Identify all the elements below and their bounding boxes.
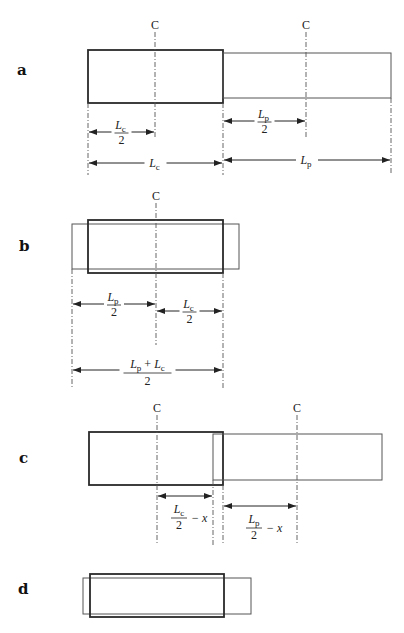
core-rect (89, 432, 223, 485)
center-marker-label: C (152, 189, 160, 203)
panel-label-b: b (19, 237, 30, 255)
panel-d: d (18, 574, 251, 617)
panels-root: aCCLc2Lp2LcLpbCLp2Lc2Lp + Lc2cCCLc2− xLp… (17, 18, 391, 617)
dimension-denominator: 2 (145, 374, 151, 388)
dimension-denominator: 2 (187, 312, 193, 326)
dimension-suffix: − x (266, 521, 283, 535)
plunger-rect (213, 434, 382, 480)
dimension-numerator: Lp (106, 290, 119, 306)
panel-a: aCCLc2Lp2LcLp (17, 18, 391, 175)
dimension-a-0: Lc2 (89, 118, 154, 147)
plunger-rect (72, 224, 239, 269)
core-rect (90, 574, 224, 617)
dimension-numerator: Lp (257, 107, 270, 123)
dimension-denominator: 2 (111, 305, 117, 319)
dimension-a-1: Lp2 (224, 107, 305, 136)
dimension-b-2: Lp + Lc2 (73, 357, 222, 388)
dimension-c-0: Lc2− x (158, 496, 212, 532)
dimension-label: Lp (299, 153, 312, 169)
dimension-b-0: Lp2 (73, 290, 155, 319)
panel-label-c: c (19, 449, 28, 467)
plunger-rect (83, 578, 251, 614)
dimension-denominator: 2 (176, 518, 182, 532)
dimension-a-2: Lc (89, 156, 222, 172)
magnetic-core-plunger-diagram: aCCLc2Lp2LcLpbCLp2Lc2Lp + Lc2cCCLc2− xLp… (0, 0, 404, 633)
center-marker-label: C (293, 401, 301, 415)
dimension-denominator: 2 (119, 133, 125, 147)
dimension-denominator: 2 (251, 528, 257, 542)
center-marker-label: C (151, 18, 159, 32)
dimension-numerator: Lc (182, 297, 194, 313)
center-marker-label: C (302, 18, 310, 32)
dimension-suffix: − x (191, 511, 208, 525)
dimension-numerator: Lp + Lc (129, 357, 165, 373)
dimension-label: Lc (148, 156, 160, 172)
dimension-denominator: 2 (262, 122, 268, 136)
plunger-rect (223, 53, 391, 98)
dimension-a-3: Lp (224, 153, 390, 169)
panel-label-a: a (17, 61, 27, 79)
dimension-b-1: Lc2 (157, 297, 222, 326)
panel-c: cCCLc2− xLp2− x (19, 401, 382, 545)
panel-label-d: d (18, 580, 29, 598)
core-rect (88, 50, 223, 103)
center-marker-label: C (153, 401, 161, 415)
panel-b: bCLp2Lc2Lp + Lc2 (19, 189, 239, 388)
dimension-c-1: Lp2− x (224, 506, 296, 542)
dimension-numerator: Lc (173, 502, 185, 518)
dimension-numerator: Lp (247, 512, 260, 528)
dimension-numerator: Lc (114, 118, 126, 134)
core-rect (88, 220, 223, 273)
